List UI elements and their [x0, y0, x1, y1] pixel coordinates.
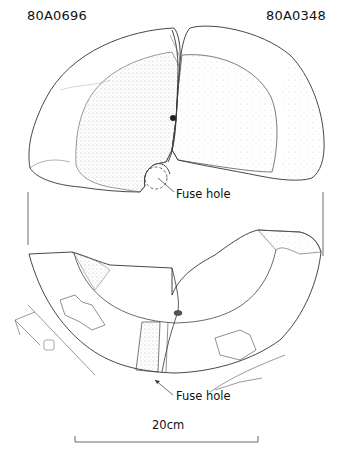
seam-hole	[170, 115, 176, 121]
archaeological-drawing	[0, 0, 340, 460]
bottom-seam-hole	[174, 311, 182, 316]
specimen-id-right: 80A0348	[266, 8, 326, 23]
bottom-view-object	[15, 230, 321, 392]
top-view-object	[29, 26, 324, 192]
fuse-hole-label-bottom: Fuse hole	[176, 389, 231, 403]
scale-bar-label: 20cm	[152, 418, 184, 432]
specimen-id-left: 80A0696	[27, 8, 87, 23]
top-fuse-leader	[158, 178, 174, 192]
fuse-hole-label-top: Fuse hole	[176, 187, 231, 201]
scale-bar	[75, 436, 258, 442]
